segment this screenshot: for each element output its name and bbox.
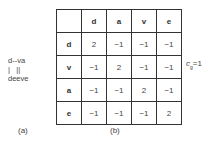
- column-header: d: [82, 10, 107, 33]
- column-header: v: [132, 10, 157, 33]
- matrix-cell: −1: [157, 79, 182, 102]
- row-header: e: [57, 102, 82, 125]
- row-header: a: [57, 79, 82, 102]
- header-row: d a v e: [57, 10, 182, 33]
- column-header: a: [107, 10, 132, 33]
- alignment-line-match: | ||: [8, 65, 28, 74]
- corner-cell: [57, 10, 82, 33]
- panel-b-label: (b): [110, 126, 120, 135]
- table-row: e −1 −1 −1 2: [57, 102, 182, 125]
- matrix-cell: −1: [82, 56, 107, 79]
- row-header: v: [57, 56, 82, 79]
- matrix-cell: −1: [107, 102, 132, 125]
- gap-cost-label: cg=1: [186, 59, 202, 70]
- matrix-cell: −1: [132, 102, 157, 125]
- table-row: a −1 −1 2 −1: [57, 79, 182, 102]
- matrix-cell: 2: [107, 56, 132, 79]
- gap-cost-value: =1: [193, 59, 202, 68]
- column-header: e: [157, 10, 182, 33]
- matrix-cell: −1: [82, 102, 107, 125]
- row-header: d: [57, 33, 82, 56]
- sequence-alignment: d--va| ||deeve: [8, 56, 28, 83]
- matrix-cell: −1: [82, 79, 107, 102]
- table-row: v −1 2 −1 −1: [57, 56, 182, 79]
- matrix-cell: 2: [132, 79, 157, 102]
- matrix-cell: 2: [82, 33, 107, 56]
- matrix-cell: −1: [107, 79, 132, 102]
- matrix-cell: −1: [132, 56, 157, 79]
- alignment-line-bottom: deeve: [8, 74, 28, 83]
- matrix-cell: 2: [157, 102, 182, 125]
- matrix-cell: −1: [157, 33, 182, 56]
- alignment-line-top: d--va: [8, 56, 28, 65]
- matrix-cell: −1: [107, 33, 132, 56]
- panel-a-label: (a): [18, 126, 28, 135]
- matrix-cell: −1: [157, 56, 182, 79]
- table-row: d 2 −1 −1 −1: [57, 33, 182, 56]
- matrix-cell: −1: [132, 33, 157, 56]
- scoring-matrix: d a v e d 2 −1 −1 −1 v −1 2 −1 −1 a −1 −…: [56, 9, 182, 125]
